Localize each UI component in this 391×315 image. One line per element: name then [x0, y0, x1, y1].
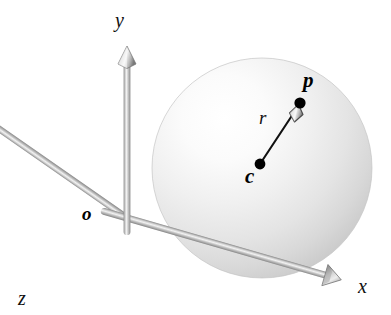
radius-label-r: r — [259, 108, 266, 127]
point-c — [255, 159, 266, 170]
axis-label-z: z — [18, 288, 26, 308]
origin-label: o — [82, 204, 92, 223]
sphere-diagram-figure: y x z o p c r — [0, 0, 391, 315]
point-label-c: c — [245, 166, 254, 187]
y-axis — [118, 46, 136, 235]
point-p — [294, 97, 305, 108]
axis-label-y: y — [115, 10, 124, 30]
point-label-p: p — [303, 70, 314, 91]
z-axis — [0, 85, 129, 220]
y-axis-arrowhead — [118, 46, 136, 69]
x-axis-arrowhead — [322, 265, 344, 291]
axis-label-x: x — [358, 276, 367, 296]
diagram-canvas — [0, 0, 391, 315]
